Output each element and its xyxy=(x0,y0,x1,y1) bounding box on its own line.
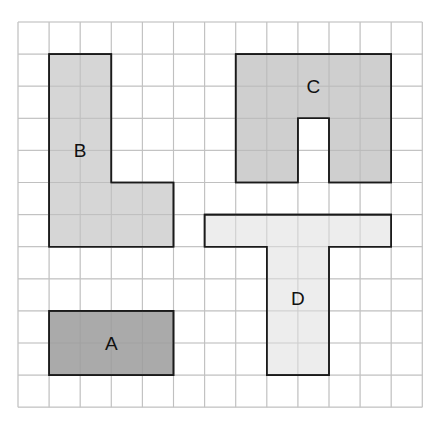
shape-c-label: C xyxy=(307,76,321,97)
shapes-grid-diagram: ABCD xyxy=(0,0,438,422)
diagram-canvas: ABCD xyxy=(0,0,438,422)
shape-b-label: B xyxy=(74,140,87,161)
shape-d-label: D xyxy=(291,288,305,309)
shape-a-label: A xyxy=(105,333,118,354)
